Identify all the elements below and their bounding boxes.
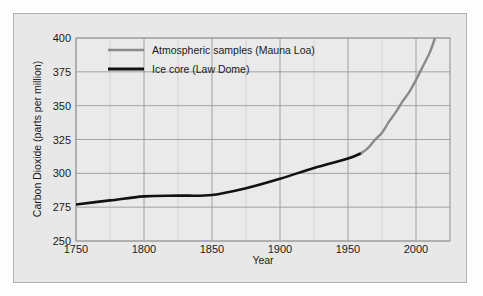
x-tick-label: 1850 — [200, 243, 224, 255]
legend-label: Ice core (Law Dome) — [152, 63, 249, 75]
x-tick-label: 2000 — [404, 243, 428, 255]
y-tick-label: 300 — [53, 167, 71, 179]
co2-line-chart: 175018001850190019502000 250275300325350… — [0, 0, 483, 296]
x-tick-label: 1800 — [132, 243, 156, 255]
y-axis-tick-labels: 250275300325350375400 — [53, 32, 71, 247]
x-axis-tick-labels: 175018001850190019502000 — [64, 243, 428, 255]
y-tick-label: 250 — [53, 235, 71, 247]
y-tick-label: 350 — [53, 100, 71, 112]
x-tick-label: 1950 — [336, 243, 360, 255]
legend-label: Atmospheric samples (Mauna Loa) — [152, 44, 315, 56]
y-tick-label: 400 — [53, 32, 71, 44]
x-axis-title: Year — [252, 254, 274, 266]
y-tick-label: 375 — [53, 66, 71, 78]
y-tick-label: 275 — [53, 201, 71, 213]
chart-page: 175018001850190019502000 250275300325350… — [0, 0, 483, 296]
y-axis-title: Carbon Dioxide (parts per million) — [31, 61, 43, 217]
y-tick-label: 325 — [53, 134, 71, 146]
